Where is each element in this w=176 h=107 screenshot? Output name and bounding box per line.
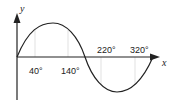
y-axis-label: y [19, 3, 25, 14]
tick-label-40: 40° [29, 66, 43, 76]
tick-label-140: 140° [61, 66, 80, 76]
y-axis-arrow-icon [14, 13, 21, 23]
x-axis-label: x [161, 57, 167, 68]
tick-label-320: 320° [130, 45, 149, 55]
sine-diagram: y x 40° 140° 220° 320° [0, 0, 176, 107]
tick-label-220: 220° [97, 45, 116, 55]
